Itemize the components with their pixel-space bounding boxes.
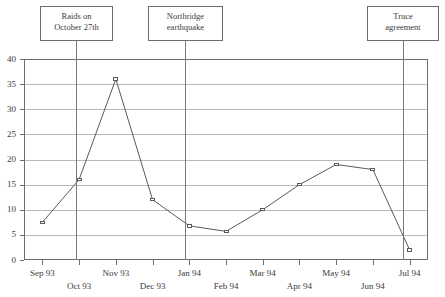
annotation-line-1: Truce (368, 11, 438, 22)
annotation-line-2: October 27th (41, 22, 112, 33)
data-point-marker (370, 168, 375, 171)
annotation-line-2: earthquake (149, 22, 222, 33)
x-axis-tick (189, 260, 190, 265)
y-axis-label: 25 (0, 130, 16, 139)
data-point-marker (297, 183, 302, 186)
annotation-box-truce: Truce agreement (367, 6, 439, 41)
data-point-marker (334, 163, 339, 166)
x-axis-tick (299, 260, 300, 265)
data-point-marker (407, 248, 412, 251)
x-axis-label: Apr 94 (277, 282, 321, 291)
x-axis-label: Feb 94 (204, 282, 248, 291)
x-axis-label: Dec 93 (131, 282, 175, 291)
x-axis-label: Mar 94 (241, 269, 285, 278)
chart-figure: Raids on October 27th Northridge earthqu… (0, 0, 445, 297)
x-axis-tick (373, 260, 374, 265)
x-axis-label: Nov 93 (94, 269, 138, 278)
data-point-marker (187, 224, 192, 227)
x-axis-label: Sep 93 (20, 269, 64, 278)
annotation-box-northridge: Northridge earthquake (148, 6, 223, 41)
y-axis-label: 15 (0, 180, 16, 189)
y-axis-label: 40 (0, 55, 16, 64)
x-axis-label: May 94 (314, 269, 358, 278)
x-axis-tick (336, 260, 337, 265)
y-axis-label: 0 (0, 256, 16, 265)
x-axis-tick (79, 260, 80, 265)
y-axis-tick (20, 260, 24, 261)
x-axis-tick (116, 260, 117, 265)
x-axis-tick (263, 260, 264, 265)
x-axis-tick (410, 260, 411, 265)
annotation-box-raids: Raids on October 27th (40, 6, 113, 41)
y-axis-label: 35 (0, 80, 16, 89)
x-axis-tick (42, 260, 43, 265)
annotation-line-2: agreement (368, 22, 438, 33)
annotation-connector-raids (76, 41, 77, 260)
data-point-marker (260, 208, 265, 211)
x-axis-label: Jan 94 (167, 269, 211, 278)
data-point-marker (113, 77, 118, 80)
annotation-line-1: Raids on (41, 11, 112, 22)
y-axis-label: 5 (0, 230, 16, 239)
y-axis-label: 20 (0, 155, 16, 164)
x-axis-label: Jul 94 (388, 269, 432, 278)
data-point-marker (77, 178, 82, 181)
data-point-marker (40, 221, 45, 224)
y-axis-label: 10 (0, 205, 16, 214)
annotation-connector-truce (403, 41, 404, 260)
x-axis-tick (153, 260, 154, 265)
y-axis-label: 30 (0, 105, 16, 114)
data-point-marker (224, 230, 229, 233)
annotation-line-1: Northridge (149, 11, 222, 22)
x-axis-label: Oct 93 (57, 282, 101, 291)
data-point-marker (150, 198, 155, 201)
x-axis-label: Jun 94 (351, 282, 395, 291)
x-axis-tick (226, 260, 227, 265)
